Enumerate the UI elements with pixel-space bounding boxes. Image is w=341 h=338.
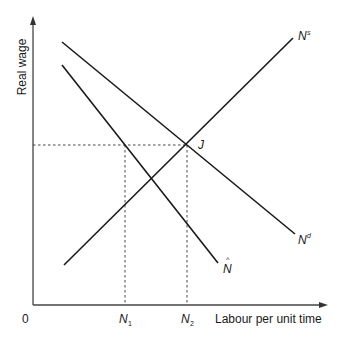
svg-text:N: N (223, 262, 232, 276)
x-axis-arrow-icon (319, 302, 328, 308)
guide-lines (33, 145, 187, 305)
svg-text:1: 1 (128, 320, 132, 327)
curves (62, 38, 295, 265)
n1-label: N 1 (119, 312, 132, 327)
y-axis-label: Real wage (15, 38, 29, 95)
demand-curve-label: N d (298, 232, 312, 247)
n-hat-curve (62, 65, 218, 263)
svg-text:d: d (307, 232, 312, 239)
svg-text:N: N (181, 312, 190, 326)
n-hat-curve-label: ^ N (223, 256, 232, 276)
supply-curve-label: N s (298, 29, 311, 43)
equilibrium-label: J (197, 138, 205, 152)
n2-label: N 2 (181, 312, 194, 327)
svg-text:2: 2 (190, 320, 194, 327)
axes (30, 16, 328, 308)
svg-text:N: N (119, 312, 128, 326)
x-axis-label: Labour per unit time (215, 312, 322, 326)
y-axis-arrow-icon (30, 16, 36, 25)
svg-text:N: N (298, 233, 307, 247)
origin-label: 0 (22, 312, 29, 326)
labour-market-diagram: Real wage 0 Labour per unit time N 1 N 2… (0, 0, 341, 338)
svg-text:s: s (307, 29, 311, 36)
svg-text:N: N (298, 29, 307, 43)
